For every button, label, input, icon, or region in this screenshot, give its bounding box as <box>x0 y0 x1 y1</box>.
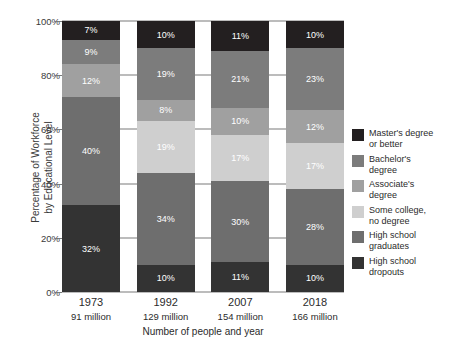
y-axis-tickmark <box>55 184 62 185</box>
y-axis-tick-labels: 0%20%40%60%80%100% <box>10 0 60 346</box>
bar-segment-value-label: 10% <box>306 273 324 283</box>
bar-segment-value-label: 12% <box>82 76 100 86</box>
bar-segment-value-label: 19% <box>157 69 175 79</box>
bar-segment-value-label: 11% <box>232 31 249 41</box>
bar-column[interactable]: 7%9%12%40%32% <box>62 21 120 292</box>
bar-segment-value-label: 7% <box>84 25 97 35</box>
bar-segment[interactable]: 9% <box>62 40 120 64</box>
x-axis-count-label: 129 million <box>137 310 195 324</box>
stacked-bar-chart: Percentage of Workforce by Educational L… <box>0 0 461 346</box>
bar-segment[interactable]: 40% <box>62 97 120 205</box>
legend-item-label: Master's degree or better <box>369 128 433 150</box>
legend-item[interactable]: Bachelor's degree <box>352 154 460 176</box>
legend-item-label: High school dropouts <box>369 256 416 278</box>
bar-segment-value-label: 10% <box>157 30 175 40</box>
x-axis-count-label: 154 million <box>211 310 269 324</box>
bar-segment-value-label: 30% <box>231 217 249 227</box>
y-axis-tickmark <box>55 238 62 239</box>
legend-swatch-icon <box>352 257 364 269</box>
y-axis-tickmark <box>55 129 62 130</box>
legend-item[interactable]: Some college, no degree <box>352 205 460 227</box>
bar-segment[interactable]: 7% <box>62 21 120 40</box>
bar-segment-value-label: 21% <box>231 74 249 84</box>
bar-segment[interactable]: 11% <box>211 21 269 51</box>
legend-swatch-icon <box>352 155 364 167</box>
bar-segment[interactable]: 10% <box>211 108 269 135</box>
bar-segment[interactable]: 11% <box>211 262 269 292</box>
legend-swatch-icon <box>352 231 364 243</box>
bar-segment-value-label: 19% <box>157 142 175 152</box>
bar-segment-value-label: 17% <box>231 153 249 163</box>
x-axis-tick-group: 1992129 million <box>137 296 195 323</box>
legend-item-label: Bachelor's degree <box>369 154 411 176</box>
bar-segment[interactable]: 17% <box>286 143 344 189</box>
x-axis-tick-group: 2018166 million <box>286 296 344 323</box>
bars-layer: 7%9%12%40%32%10%19%8%19%34%10%11%21%10%1… <box>62 21 344 292</box>
bar-segment-value-label: 17% <box>306 161 324 171</box>
legend: Master's degree or betterBachelor's degr… <box>352 128 460 281</box>
bar-segment[interactable]: 10% <box>137 265 195 292</box>
legend-item-label: Associate's degree <box>369 179 414 201</box>
x-axis-tick-group: 197391 million <box>62 296 120 323</box>
x-axis-tick-group: 2007154 million <box>211 296 269 323</box>
bar-segment-value-label: 34% <box>157 214 175 224</box>
bar-segment[interactable]: 10% <box>286 265 344 292</box>
bar-segment[interactable]: 17% <box>211 135 269 181</box>
bar-column[interactable]: 11%21%10%17%30%11% <box>211 21 269 292</box>
legend-swatch-icon <box>352 129 364 141</box>
bar-segment-value-label: 32% <box>82 244 100 254</box>
y-axis-tickmark <box>55 292 62 293</box>
bar-segment[interactable]: 10% <box>137 21 195 48</box>
bar-segment-value-label: 9% <box>84 47 97 57</box>
legend-swatch-icon <box>352 180 364 192</box>
bar-segment[interactable]: 23% <box>286 48 344 110</box>
bar-segment[interactable]: 30% <box>211 181 269 262</box>
legend-item[interactable]: Master's degree or better <box>352 128 460 150</box>
bar-segment-value-label: 12% <box>306 122 324 132</box>
legend-item-label: Some college, no degree <box>369 205 426 227</box>
legend-swatch-icon <box>352 206 364 218</box>
bar-segment-value-label: 10% <box>306 30 324 40</box>
bar-segment[interactable]: 12% <box>286 110 344 143</box>
y-axis-tickmark <box>55 75 62 76</box>
plot-area: 7%9%12%40%32%10%19%8%19%34%10%11%21%10%1… <box>62 21 344 292</box>
legend-item-label: High school graduates <box>369 230 416 252</box>
x-axis-year-label: 2007 <box>211 296 269 310</box>
x-axis-tick-labels: 197391 million1992129 million2007154 mil… <box>62 296 344 323</box>
legend-item[interactable]: High school dropouts <box>352 256 460 278</box>
x-axis-title: Number of people and year <box>62 326 344 337</box>
bar-segment[interactable]: 19% <box>137 121 195 172</box>
bar-segment[interactable]: 28% <box>286 189 344 265</box>
x-axis-year-label: 1992 <box>137 296 195 310</box>
legend-item[interactable]: Associate's degree <box>352 179 460 201</box>
bar-segment-value-label: 8% <box>159 105 172 115</box>
bar-segment-value-label: 28% <box>306 222 324 232</box>
bar-segment-value-label: 10% <box>157 273 175 283</box>
legend-item[interactable]: High school graduates <box>352 230 460 252</box>
bar-segment[interactable]: 19% <box>137 48 195 99</box>
bar-column[interactable]: 10%19%8%19%34%10% <box>137 21 195 292</box>
bar-segment[interactable]: 12% <box>62 64 120 97</box>
bar-column[interactable]: 10%23%12%17%28%10% <box>286 21 344 292</box>
x-axis-year-label: 1973 <box>62 296 120 310</box>
bar-segment-value-label: 10% <box>231 116 249 126</box>
x-axis-count-label: 91 million <box>62 310 120 324</box>
x-axis-year-label: 2018 <box>286 296 344 310</box>
bar-segment-value-label: 11% <box>232 272 249 282</box>
bar-segment-value-label: 23% <box>306 74 324 84</box>
bar-segment[interactable]: 34% <box>137 173 195 265</box>
y-axis-tickmark <box>55 21 62 22</box>
bar-segment[interactable]: 21% <box>211 51 269 108</box>
x-axis-count-label: 166 million <box>286 310 344 324</box>
bar-segment[interactable]: 32% <box>62 205 120 292</box>
bar-segment-value-label: 40% <box>82 146 100 156</box>
bar-segment[interactable]: 10% <box>286 21 344 48</box>
bar-segment[interactable]: 8% <box>137 100 195 122</box>
